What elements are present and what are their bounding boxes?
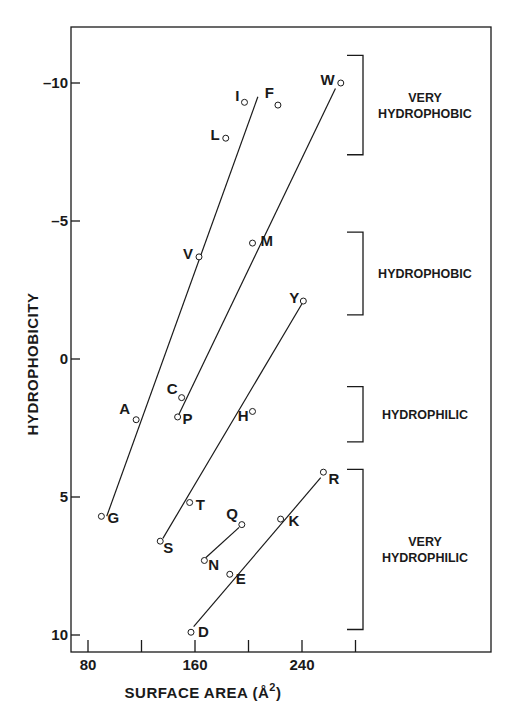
point-label: A (119, 400, 130, 417)
point-marker (98, 513, 104, 519)
point-marker (241, 99, 247, 105)
category-bracket: VERYHYDROPHOBIC (347, 55, 472, 154)
point-marker (223, 135, 229, 141)
point-marker (300, 298, 306, 304)
point-marker (250, 240, 256, 246)
point-label: E (236, 570, 246, 587)
point-label: Y (289, 289, 299, 306)
data-point-R: R (320, 469, 339, 487)
point-marker (320, 469, 326, 475)
point-label: Q (226, 505, 238, 522)
category-bracket: HYDROPHOBIC (347, 232, 472, 315)
point-label: C (167, 380, 178, 397)
point-marker (133, 417, 139, 423)
point-marker (278, 516, 284, 522)
data-point-T: T (187, 496, 205, 513)
data-point-F: F (265, 84, 281, 108)
x-axis-title: SURFACE AREA (Å2) (125, 681, 282, 701)
point-label: G (107, 509, 119, 526)
data-point-N: N (201, 556, 219, 573)
point-label: S (163, 539, 173, 556)
point-marker (175, 414, 181, 420)
y-tick-label: –10 (43, 74, 68, 91)
category-label: HYDROPHILIC (382, 551, 468, 565)
data-point-I: I (235, 87, 247, 105)
category-label: VERY (408, 535, 442, 549)
point-label: V (183, 245, 193, 262)
point-label: K (289, 512, 300, 529)
data-points: GAVLIFWMCPYHTSQNEKRD (98, 71, 343, 640)
bracket-shape (347, 55, 363, 154)
point-label: D (198, 623, 209, 640)
category-label: HYDROPHOBIC (378, 107, 472, 121)
y-tick-label: –5 (51, 212, 68, 229)
y-axis: –10–50510 (43, 74, 80, 643)
category-label: VERY (408, 91, 442, 105)
bracket-shape (347, 232, 363, 315)
y-axis-title: HYDROPHOBICITY (24, 293, 41, 436)
y-tick-label: 5 (60, 488, 68, 505)
category-label: HYDROPHOBIC (378, 267, 472, 281)
point-marker (250, 408, 256, 414)
point-label: N (208, 556, 219, 573)
data-point-C: C (167, 380, 185, 401)
point-marker (227, 571, 233, 577)
point-label: L (211, 126, 220, 143)
category-bracket: VERYHYDROPHILIC (347, 469, 468, 629)
data-point-Y: Y (289, 289, 306, 306)
point-marker (239, 522, 245, 528)
x-tick-label: 80 (80, 656, 97, 673)
point-label: I (235, 87, 239, 104)
category-brackets: VERYHYDROPHOBICHYDROPHOBICHYDROPHILICVER… (347, 55, 472, 629)
category-label: HYDROPHILIC (382, 408, 468, 422)
point-marker (188, 629, 194, 635)
fit-line (194, 478, 321, 627)
data-point-V: V (183, 245, 202, 262)
x-tick-label: 240 (289, 656, 314, 673)
y-tick-label: 0 (60, 350, 68, 367)
data-point-Q: Q (226, 505, 245, 528)
x-tick-label: 160 (182, 656, 207, 673)
point-marker (338, 80, 344, 86)
data-point-P: P (175, 410, 193, 427)
bracket-shape (347, 387, 363, 442)
point-label: F (265, 84, 274, 101)
point-label: R (328, 470, 339, 487)
point-marker (275, 102, 281, 108)
data-point-K: K (278, 512, 300, 529)
point-label: H (238, 407, 249, 424)
bracket-shape (347, 469, 363, 629)
category-bracket: HYDROPHILIC (347, 387, 468, 442)
data-point-W: W (321, 71, 344, 88)
data-point-H: H (238, 407, 256, 424)
point-label: W (321, 71, 336, 88)
data-point-L: L (211, 126, 229, 143)
x-axis: 80160240 (80, 640, 356, 673)
point-label: M (261, 232, 274, 249)
data-point-M: M (250, 232, 274, 249)
data-point-A: A (119, 400, 139, 423)
point-marker (196, 254, 202, 260)
data-point-S: S (157, 538, 173, 556)
hydrophobicity-vs-surface-area-chart: –10–50510 80160240 HYDROPHOBICITY SURFAC… (0, 0, 513, 728)
fit-lines (107, 89, 336, 627)
fit-line (206, 527, 239, 557)
fit-line (107, 97, 258, 517)
point-label: P (183, 410, 193, 427)
point-marker (187, 500, 193, 506)
point-label: T (196, 496, 205, 513)
point-marker (201, 557, 207, 563)
data-point-G: G (98, 509, 119, 526)
data-point-D: D (188, 623, 209, 640)
y-tick-label: 10 (51, 626, 68, 643)
point-marker (179, 395, 185, 401)
